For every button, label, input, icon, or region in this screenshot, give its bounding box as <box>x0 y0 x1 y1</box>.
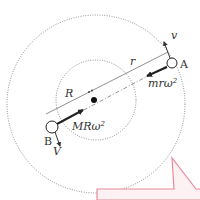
outer-orbit <box>7 15 185 193</box>
velocity-label-b: V <box>53 145 62 158</box>
radius-label-a: r <box>130 55 136 68</box>
body-a <box>167 58 177 68</box>
force-arrow-a <box>147 67 167 76</box>
velocity-arrow-a <box>164 42 170 58</box>
dimension-mark <box>91 90 93 92</box>
center-of-mass <box>91 97 97 103</box>
force-label-a: mrω2 <box>148 77 178 90</box>
radius-label-b: R <box>64 87 73 100</box>
velocity-label-a: v <box>171 29 178 42</box>
velocity-arrow-b <box>55 132 60 146</box>
diagram-canvas: v A r mrω2 R B V MRω2 <box>0 0 200 200</box>
dimension-mark <box>88 91 90 93</box>
body-label-a: A <box>179 58 189 71</box>
force-label-b: MRω2 <box>71 120 106 133</box>
body-label-b: B <box>44 135 52 148</box>
body-b <box>46 121 58 133</box>
callout-bubble <box>97 158 200 200</box>
